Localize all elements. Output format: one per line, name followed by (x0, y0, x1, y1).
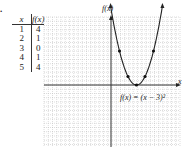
data-point (143, 75, 146, 78)
equation-label: f(x) = (x − 3)² (120, 93, 166, 102)
data-point (118, 49, 121, 52)
parabola-graph: f(x) x f(x) = (x − 3)² (0, 0, 183, 147)
x-axis-label: x (177, 77, 182, 86)
data-point (135, 83, 138, 86)
y-axis-label: f(x) (102, 4, 113, 13)
curve-arrow-right-icon (160, 3, 164, 8)
grid-lines (44, 17, 180, 147)
data-point (152, 49, 155, 52)
data-point (126, 75, 129, 78)
